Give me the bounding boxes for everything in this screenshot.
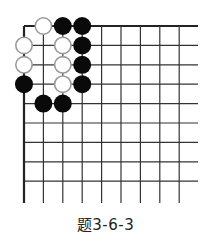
white-stone [16,57,32,73]
white-stone [35,18,51,34]
black-stone [73,56,91,74]
black-stone [34,95,52,113]
black-stone [73,36,91,54]
go-board [0,0,211,210]
white-stone [16,37,32,53]
problem-caption: 题3-6-3 [0,213,211,234]
black-stone [73,17,91,35]
black-stone [54,17,72,35]
black-stone [54,95,72,113]
white-stone [55,37,71,53]
board-grid [24,26,198,203]
white-stone [55,57,71,73]
black-stone [15,75,33,93]
white-stone [55,76,71,92]
black-stone [73,75,91,93]
